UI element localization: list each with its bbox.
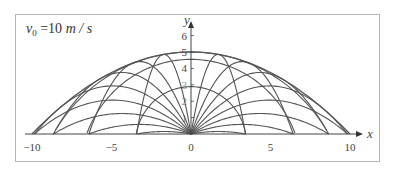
trajectory-140 [34, 100, 191, 134]
trajectory-30 [191, 114, 329, 135]
x-axis-label: x [366, 126, 373, 141]
x-axis-arrow-icon [356, 131, 363, 137]
y-tick-label: 5 [182, 46, 188, 58]
y-tick-label: 3 [182, 79, 188, 91]
x-tick-label: 0 [188, 141, 194, 153]
trajectory-40 [191, 100, 348, 134]
x-tick-label: 5 [268, 141, 274, 153]
projectile-chart: −10−50510123456xyv0 =10 m / s [0, 0, 394, 172]
chart-title: v0 =10 m / s [26, 21, 93, 38]
x-tick-label: −10 [23, 141, 41, 153]
y-axis-label: y [182, 12, 190, 27]
trajectory-60 [191, 73, 329, 135]
x-tick-label: −5 [106, 141, 118, 153]
x-tick-label: 10 [345, 141, 357, 153]
y-tick-label: 6 [182, 30, 188, 42]
y-tick-label: 4 [182, 62, 188, 74]
trajectory-120 [53, 73, 191, 135]
y-tick-label: 2 [182, 95, 188, 107]
y-tick-label: 1 [182, 112, 188, 124]
trajectory-150 [53, 114, 191, 135]
